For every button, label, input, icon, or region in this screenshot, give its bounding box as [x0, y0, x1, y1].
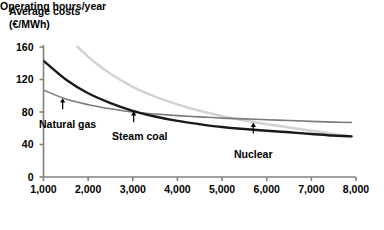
x-axis-tick-label: 4,000 — [154, 183, 200, 195]
y-axis-tick-label: 160 — [4, 41, 34, 53]
y-axis-tick-label: 0 — [4, 171, 34, 183]
series-label-nuclear: Nuclear — [234, 148, 273, 160]
x-axis-tick-label: 7,000 — [288, 183, 334, 195]
series-group — [44, 2, 352, 136]
y-axis-tick-label: 120 — [4, 73, 34, 85]
annotation-arrow-nuclear — [251, 123, 256, 134]
x-axis-tick-label: 2,000 — [65, 183, 111, 195]
x-axis-tick-label: 3,000 — [110, 183, 156, 195]
x-axis-tick-label: 5,000 — [199, 183, 245, 195]
chart-canvas: Average costs (€/MWh) Operating hours/ye… — [0, 0, 384, 230]
x-axis-tick-label: 1,000 — [21, 183, 67, 195]
series-label-steam-coal: Steam coal — [112, 130, 167, 142]
y-axis-tick-label: 80 — [4, 106, 34, 118]
x-axis-tick-label: 6,000 — [244, 183, 290, 195]
annotation-arrow-natural-gas — [60, 98, 65, 109]
y-axis-tick-label: 40 — [4, 138, 34, 150]
plot-area — [0, 0, 384, 230]
series-label-natural-gas: Natural gas — [39, 118, 96, 130]
x-axis-tick-label: 8,000 — [333, 183, 379, 195]
